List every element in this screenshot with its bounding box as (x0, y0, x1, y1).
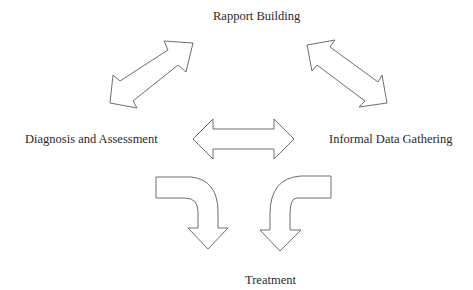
node-treatment: Treatment (245, 273, 296, 287)
double-arrow-diagnosis-informal-icon (193, 119, 294, 159)
diagram-canvas: Rapport Building Diagnosis and Assessmen… (0, 0, 473, 290)
double-arrow-rapport-informal-icon (307, 40, 387, 107)
double-arrow-diagnosis-rapport-icon (110, 41, 193, 108)
curved-arrow-informal-treatment-icon (260, 176, 331, 251)
curved-arrow-diagnosis-treatment-icon (156, 177, 228, 249)
node-informal-data-gathering: Informal Data Gathering (329, 132, 453, 146)
node-diagnosis-assessment: Diagnosis and Assessment (25, 132, 158, 146)
node-rapport-building: Rapport Building (213, 9, 300, 23)
